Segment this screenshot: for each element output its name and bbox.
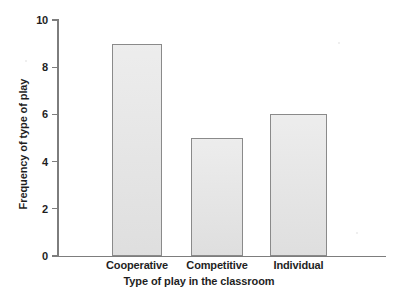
y-axis-tick <box>52 161 57 162</box>
y-axis-tick-label: 10 <box>8 14 48 26</box>
y-axis-tick <box>52 67 57 68</box>
y-axis-tick-label: 0 <box>8 250 48 262</box>
x-axis-tick-label: Individual <box>274 259 324 271</box>
bar-individual <box>270 114 327 256</box>
bar-cooperative <box>112 44 162 256</box>
scan-speckle <box>25 60 27 62</box>
y-axis-tick <box>52 114 57 115</box>
y-axis-tick <box>52 208 57 209</box>
x-axis-title: Type of play in the classroom <box>0 275 398 287</box>
scan-speckle <box>356 232 358 234</box>
bar-competitive <box>191 138 243 256</box>
y-axis-title: Frequency of type of play <box>17 44 29 244</box>
x-axis-tick-label: Competitive <box>186 259 247 271</box>
y-axis-tick <box>52 19 57 20</box>
y-axis-tick <box>52 255 57 256</box>
x-axis-tick-label: Cooperative <box>106 259 168 271</box>
scan-speckle <box>338 42 340 44</box>
y-axis-line <box>57 19 59 257</box>
bar-chart-figure: 0246810 CooperativeCompetitiveIndividual… <box>0 0 398 301</box>
